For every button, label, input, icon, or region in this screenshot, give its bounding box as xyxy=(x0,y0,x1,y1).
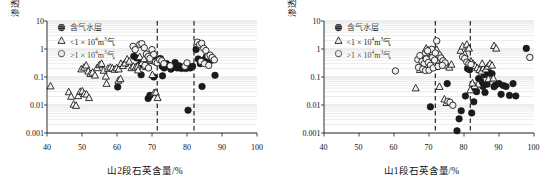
scatter-plot-left xyxy=(0,0,277,186)
panel-left: 渗透率/10-3μm2 山2段石英含量/% 10 1 0.1 0.01 0.00… xyxy=(0,0,277,186)
figure-two-panel-scatter: 渗透率/10-3μm2 山2段石英含量/% 10 1 0.1 0.01 0.00… xyxy=(0,0,553,186)
panel-right: 渗透率/10-3μm2 山1段石英含量/% 10 1 0.1 0.01 0.00… xyxy=(277,0,553,186)
scatter-plot-right xyxy=(277,0,553,186)
